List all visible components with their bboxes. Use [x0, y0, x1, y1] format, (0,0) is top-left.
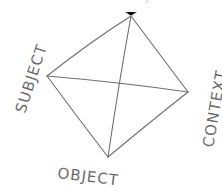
edge-left-bottom [47, 76, 108, 157]
edge-right-top [131, 16, 188, 92]
diamond-shape [47, 16, 188, 157]
top-vertex-mark [125, 0, 148, 16]
diagram-canvas: SUBJECT CONTEXT OBJECT [0, 0, 222, 194]
edge-top-left [47, 16, 131, 76]
diagonal-vertical [108, 16, 131, 157]
label-subject: SUBJECT [12, 42, 51, 115]
edge-bottom-right [108, 92, 188, 157]
label-context: CONTEXT [199, 68, 222, 148]
label-object: OBJECT [57, 164, 120, 189]
diagonal-horizontal [47, 76, 188, 92]
